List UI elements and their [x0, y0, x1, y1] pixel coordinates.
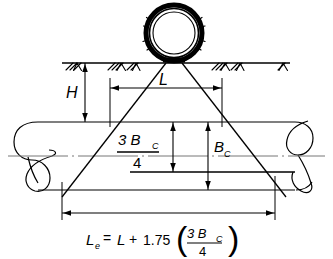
dimension-L-label: L: [159, 71, 168, 88]
tire-wheel-icon: [143, 5, 205, 61]
diagram-canvas: H L 3 B C 4: [0, 0, 333, 259]
equation-L-symbol: L: [117, 231, 125, 248]
label-three-quarter-Bc: 3 B C 4: [117, 131, 159, 171]
equation-fraction-numerator: 3 B: [187, 226, 207, 241]
equation-effective-length: L e = L + 1.75 ( ) 3 B C 4: [86, 219, 239, 259]
equation-Le-symbol: L: [86, 231, 94, 248]
tire-contact-patch: [163, 58, 185, 63]
equation-plus: +: [129, 231, 137, 247]
Bc-subscript: C: [224, 149, 231, 159]
buried-pipe: [8, 121, 325, 193]
three-quarter-numerator: 3 B: [118, 131, 141, 148]
equation-paren-close: ): [228, 219, 239, 257]
dimension-H-label: H: [66, 84, 78, 101]
three-quarter-numerator-subscript: C: [152, 141, 159, 151]
equation-coefficient: 1.75: [143, 232, 170, 248]
equation-equals: =: [103, 230, 111, 246]
three-quarter-denominator: 4: [133, 154, 141, 171]
equation-Le-subscript: e: [95, 241, 100, 251]
equation-fraction-denominator: 4: [199, 244, 206, 259]
Bc-symbol: B: [214, 138, 224, 155]
ground-hatching: [66, 63, 288, 71]
figure-container: H L 3 B C 4: [0, 0, 333, 259]
dimension-H: [82, 63, 88, 122]
dimension-Le: [62, 176, 275, 220]
